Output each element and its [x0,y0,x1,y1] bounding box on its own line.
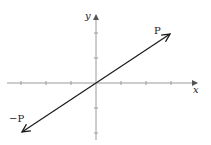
vector-neg-p-label: −P [9,114,24,124]
x-axis-label: x [193,85,199,95]
plot-canvas [0,0,211,145]
vector-diagram: x y P −P [0,0,211,145]
x-axis [7,81,197,85]
vector-p-label: P [154,26,161,36]
y-axis-label: y [85,11,91,21]
vector-neg-p [22,83,96,132]
y-axis [94,15,98,140]
vector-p [96,34,170,83]
